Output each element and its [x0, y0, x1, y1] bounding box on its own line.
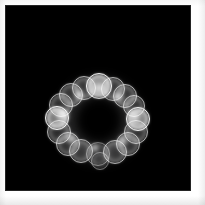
image-plate: [5, 5, 191, 191]
bokeh-hotspot: [53, 106, 71, 124]
bokeh-hotspot: [73, 89, 85, 101]
bokeh-hotspot: [90, 79, 108, 97]
bokeh-ring-stage: [5, 5, 191, 191]
bokeh-hotspot: [127, 109, 143, 125]
bokeh-rim: [91, 152, 109, 170]
figure-root: [0, 0, 205, 205]
bokeh-hotspot: [117, 135, 129, 147]
bokeh-hotspot: [90, 143, 100, 153]
bokeh-hotspot: [65, 133, 77, 145]
bokeh-hotspot: [113, 91, 125, 103]
bokeh-circle: [91, 152, 109, 170]
